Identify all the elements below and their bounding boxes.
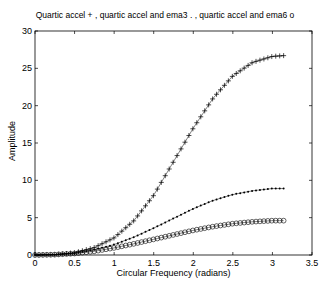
plus-marker: [190, 126, 195, 131]
dot-marker: [275, 188, 277, 190]
dot-marker: [125, 239, 127, 241]
dot-marker: [251, 190, 253, 192]
dot-marker: [200, 205, 202, 207]
dot-marker: [212, 200, 214, 202]
dot-marker: [160, 223, 162, 225]
plus-marker: [206, 102, 211, 107]
dot-marker: [204, 203, 206, 205]
dot-marker: [129, 238, 131, 240]
plus-marker: [198, 114, 203, 119]
dot-marker: [216, 198, 218, 200]
plus-marker: [155, 187, 160, 192]
plot-area: 00.511.522.533.5051015202530: [0, 0, 330, 292]
dot-marker: [176, 216, 178, 218]
dot-marker: [121, 241, 123, 243]
dot-marker: [235, 193, 237, 195]
dot-marker: [271, 188, 273, 190]
dot-marker: [137, 234, 139, 236]
dot-marker: [192, 208, 194, 210]
x-axis-label: Circular Frequency (radians): [35, 268, 312, 278]
x-tick-label: 2: [191, 258, 196, 268]
y-tick-label: 15: [22, 138, 32, 148]
plus-marker: [159, 180, 164, 185]
dot-marker: [141, 233, 143, 235]
y-tick-label: 30: [22, 26, 32, 36]
dot-marker: [148, 229, 150, 231]
plus-marker: [171, 160, 176, 165]
dot-marker: [267, 188, 269, 190]
dot-marker: [164, 221, 166, 223]
plus-marker: [246, 63, 251, 68]
plus-marker: [281, 53, 286, 58]
plus-marker: [234, 71, 239, 76]
dot-marker: [152, 227, 154, 229]
dot-marker: [156, 225, 158, 227]
plus-marker: [175, 153, 180, 158]
y-tick-label: 10: [22, 175, 32, 185]
dot-marker: [279, 188, 281, 190]
dot-marker: [223, 196, 225, 198]
series-line: [35, 221, 284, 255]
y-tick-label: 0: [27, 250, 32, 260]
dot-marker: [219, 197, 221, 199]
plus-marker: [238, 68, 243, 73]
dot-marker: [259, 189, 261, 191]
dot-marker: [283, 188, 285, 190]
plus-marker: [242, 66, 247, 71]
dot-marker: [208, 201, 210, 203]
plus-marker: [182, 140, 187, 145]
dot-marker: [117, 242, 119, 244]
plus-marker: [179, 146, 184, 151]
x-tick-label: 1: [112, 258, 117, 268]
y-tick-label: 20: [22, 101, 32, 111]
plus-marker: [261, 56, 266, 61]
dot-marker: [184, 212, 186, 214]
dot-marker: [188, 210, 190, 212]
x-tick-label: 3: [270, 258, 275, 268]
plus-marker: [257, 58, 262, 63]
plus-marker: [202, 108, 207, 113]
dot-marker: [255, 189, 257, 191]
dot-marker: [227, 195, 229, 197]
plus-marker: [265, 55, 270, 60]
dot-marker: [168, 220, 170, 222]
dot-marker: [263, 189, 265, 191]
plus-marker: [269, 54, 274, 59]
plus-marker: [135, 213, 140, 218]
dot-marker: [145, 231, 147, 233]
dot-marker: [85, 250, 87, 252]
x-tick-label: 1.5: [147, 258, 160, 268]
y-tick-label: 25: [22, 63, 32, 73]
x-tick-label: 0.5: [68, 258, 81, 268]
dot-marker: [172, 218, 174, 220]
plus-marker: [163, 173, 168, 178]
dot-marker: [196, 206, 198, 208]
dot-marker: [133, 236, 135, 238]
y-tick-label: 5: [27, 213, 32, 223]
y-axis-label: Amplitude: [7, 111, 17, 171]
dot-marker: [70, 252, 72, 254]
plus-marker: [186, 133, 191, 138]
dot-marker: [231, 194, 233, 196]
plus-marker: [194, 120, 199, 125]
x-tick-label: 3.5: [306, 258, 319, 268]
plus-marker: [147, 198, 152, 203]
plus-marker: [167, 166, 172, 171]
x-tick-label: 0: [32, 258, 37, 268]
plus-marker: [143, 203, 148, 208]
dot-marker: [239, 192, 241, 194]
dot-marker: [247, 191, 249, 193]
dot-marker: [73, 252, 75, 254]
dot-marker: [243, 191, 245, 193]
plus-marker: [151, 193, 156, 198]
dot-marker: [89, 249, 91, 251]
dot-marker: [180, 214, 182, 216]
x-tick-label: 2.5: [227, 258, 240, 268]
plus-marker: [139, 208, 144, 213]
